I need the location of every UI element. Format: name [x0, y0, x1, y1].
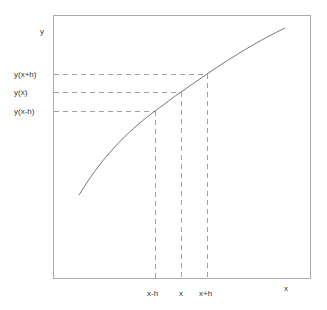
diagram-canvas [0, 0, 327, 310]
tick-y-x-plus-h: y(x+h) [14, 70, 36, 80]
plot-frame [54, 16, 311, 279]
y-axis-label: y [40, 27, 44, 37]
tick-x-plus-h: x+h [199, 289, 212, 299]
tick-x: x [179, 289, 183, 299]
x-axis-label: x [284, 284, 288, 294]
tick-x-minus-h: x-h [147, 289, 158, 299]
dashed-guides [54, 74, 208, 278]
tick-y-x-minus-h: y(x-h) [14, 107, 34, 117]
tick-y-x: y(x) [14, 88, 27, 98]
